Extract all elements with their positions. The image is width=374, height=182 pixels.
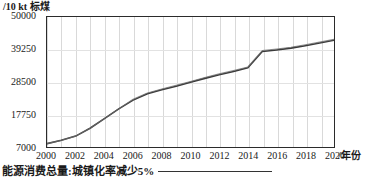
y-tick-label: 7000 xyxy=(0,143,36,153)
x-tick-label: 2010 xyxy=(181,150,201,162)
series-lines xyxy=(47,17,334,147)
x-axis-tick-labels: 2000200220042006200820102012201420162018… xyxy=(46,150,335,163)
line-chart-figure: /10 kt 标煤 700017750285003925050000 20002… xyxy=(0,0,374,182)
y-tick-label: 39250 xyxy=(0,44,36,54)
x-tick-label: 2000 xyxy=(36,150,56,162)
y-tick-label: 28500 xyxy=(0,77,36,87)
legend-label: 能源消费总量:城镇化率减少5% xyxy=(2,164,154,178)
plot-area xyxy=(46,16,335,148)
chart-legend: 能源消费总量:城镇化率减少5% xyxy=(2,164,372,178)
x-tick-label: 2004 xyxy=(94,150,114,162)
y-tick-label: 17750 xyxy=(0,110,36,120)
x-tick-label: 2008 xyxy=(152,150,172,162)
series-line-secondary xyxy=(47,39,334,143)
x-tick-label: 2002 xyxy=(65,150,85,162)
x-axis-unit-label: /年份 xyxy=(338,150,361,162)
x-tick-label: 2012 xyxy=(209,150,229,162)
x-tick-label: 2016 xyxy=(267,150,287,162)
legend-line-swatch xyxy=(158,171,272,172)
x-tick-label: 2018 xyxy=(296,150,316,162)
x-tick-label: 2014 xyxy=(238,150,258,162)
y-tick-label: 50000 xyxy=(0,11,36,21)
x-tick-label: 2006 xyxy=(123,150,143,162)
